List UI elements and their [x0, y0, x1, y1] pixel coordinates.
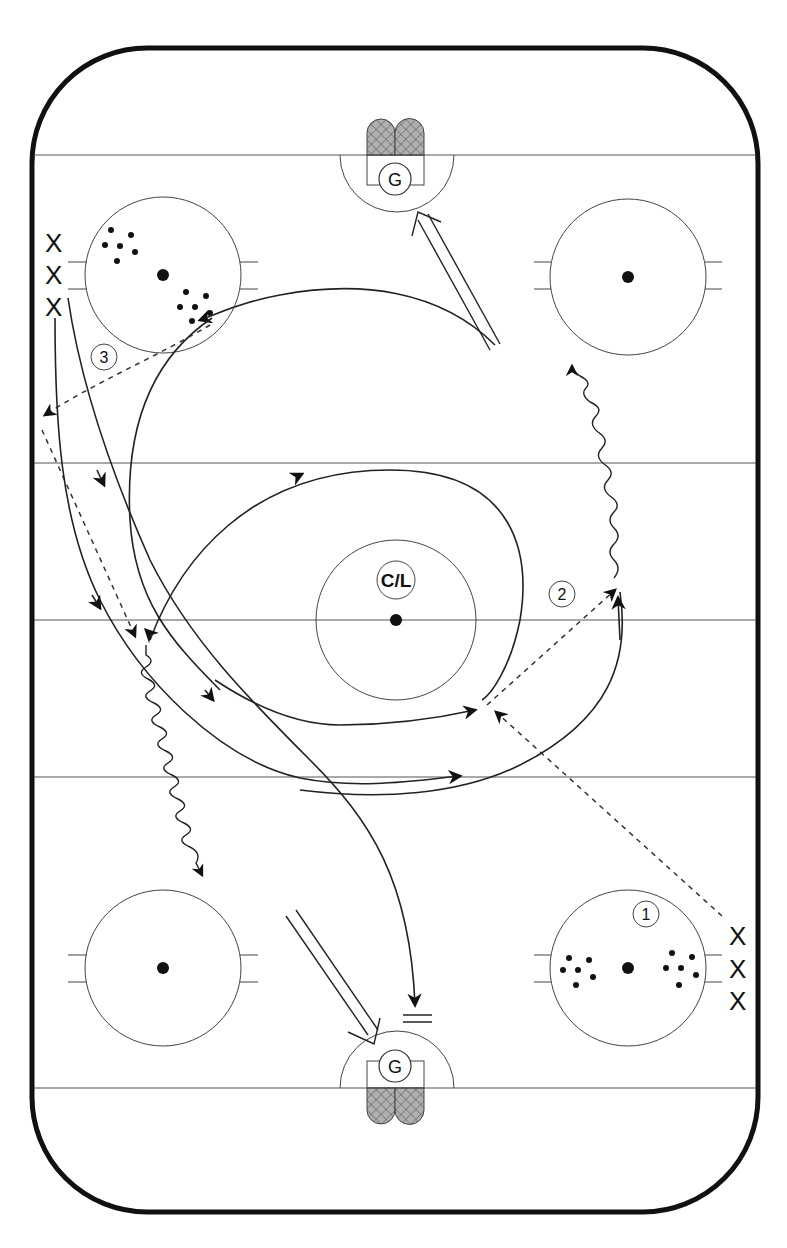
step-1-marker: 1 [633, 901, 659, 927]
rink-boards [32, 48, 758, 1212]
skate-path-upper-loop [200, 289, 495, 345]
svg-text:2: 2 [558, 586, 567, 603]
pass-arrow-step2 [487, 590, 615, 705]
skate-path-inner-loop [150, 470, 523, 700]
top-net-right [395, 119, 424, 156]
hockey-rink-diagram: C/L G G [0, 0, 787, 1248]
center-faceoff-dot [390, 614, 402, 626]
puck-carry-left-wing [141, 645, 202, 875]
shot-arrow-bottom [286, 910, 380, 1044]
svg-text:3: 3 [100, 349, 109, 366]
faceoff-circle-bottom-right [534, 890, 722, 1046]
player-marker: X [45, 260, 62, 290]
faceoff-circle-top-left [68, 197, 258, 353]
player-group-top-left: X X X [45, 228, 62, 322]
pass-arrow-down-left [42, 430, 135, 636]
player-marker: X [45, 292, 62, 322]
player-marker: X [45, 228, 62, 258]
faceoff-circle-top-right [534, 199, 722, 355]
bottom-net-right [395, 1088, 424, 1125]
top-goalie-label: G [388, 170, 402, 190]
pass-arrow-step3 [45, 325, 210, 415]
shot-arrow-top [412, 212, 500, 350]
arrow-head [618, 598, 620, 640]
coach-label: C/L [381, 570, 412, 591]
top-net-left [367, 119, 395, 155]
step-3-marker: 3 [91, 344, 117, 370]
player-marker: X [729, 986, 746, 1016]
faceoff-circle-bottom-left [68, 890, 258, 1046]
player-marker: X [729, 954, 746, 984]
svg-text:1: 1 [642, 906, 651, 923]
bottom-net-left [367, 1088, 395, 1124]
coach-marker: C/L [377, 561, 415, 599]
player-group-bottom-right: X X X [729, 921, 746, 1016]
arrow-head [146, 630, 150, 640]
stop-marker [403, 1015, 432, 1022]
bottom-goalie-label: G [388, 1057, 402, 1077]
skate-path-lane-outer [55, 318, 460, 784]
pass-arrow-step1 [496, 712, 722, 916]
arrow-head [97, 470, 104, 485]
top-goal: G [340, 119, 454, 213]
skate-path-left-loop [129, 318, 220, 690]
player-marker: X [729, 921, 746, 951]
puck-carry-right-wing [572, 366, 618, 578]
bottom-goal: G [340, 1031, 454, 1125]
arrow-head [205, 690, 213, 700]
skate-path-lane-inner [68, 298, 415, 1005]
step-2-marker: 2 [549, 581, 575, 607]
arrow-head [300, 474, 302, 475]
skate-path-outer-right [300, 592, 622, 795]
